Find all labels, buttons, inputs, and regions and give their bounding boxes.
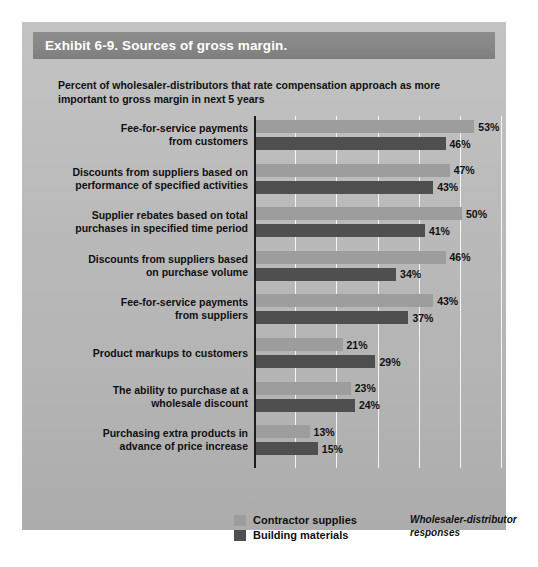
category-label-line: Fee-for-service payments [38, 296, 248, 309]
bar-contractor-supplies [256, 207, 462, 220]
bar-row: 15% [256, 442, 343, 455]
bar-row: 47% [256, 164, 475, 177]
category-label: Fee-for-service paymentsfrom suppliers [38, 296, 248, 322]
bar-row: 23% [256, 382, 376, 395]
bar-value-label: 47% [454, 164, 475, 176]
bar-contractor-supplies [256, 164, 450, 177]
bar-value-label: 41% [429, 225, 450, 237]
category-label: Product markups to customers [38, 347, 248, 360]
bar-value-label: 29% [379, 356, 400, 368]
bar-value-label: 43% [437, 181, 458, 193]
category-label: The ability to purchase at awholesale di… [38, 384, 248, 410]
bar-building-materials [256, 442, 318, 455]
category-label-line: Product markups to customers [38, 347, 248, 360]
bar-value-label: 34% [400, 268, 421, 280]
bar-contractor-supplies [256, 294, 433, 307]
bar-building-materials [256, 224, 425, 237]
chart-subtitle: Percent of wholesaler-distributors that … [58, 78, 478, 106]
bar-row: 34% [256, 268, 421, 281]
exhibit-panel: Exhibit 6-9. Sources of gross margin. Pe… [22, 22, 506, 530]
category-label-line: Supplier rebates based on total [38, 209, 248, 222]
bar-row: 46% [256, 137, 471, 150]
category-label-line: wholesale discount [38, 397, 248, 410]
bar-row: 29% [256, 355, 400, 368]
category-label-line: performance of specified activities [38, 179, 248, 192]
category-label-line: Discounts from suppliers based [38, 253, 248, 266]
bar-contractor-supplies [256, 251, 446, 264]
bar-contractor-supplies [256, 120, 474, 133]
legend-swatch [234, 530, 246, 541]
category-label-line: from customers [38, 135, 248, 148]
bar-value-label: 46% [450, 138, 471, 150]
bar-row: 13% [256, 425, 335, 438]
plot-area: 53%46%47%43%50%41%46%34%43%37%21%29%23%2… [254, 114, 485, 470]
bar-value-label: 53% [478, 121, 499, 133]
exhibit-title-band: Exhibit 6-9. Sources of gross margin. [33, 32, 495, 59]
bar-value-label: 43% [437, 295, 458, 307]
bar-value-label: 24% [359, 399, 380, 411]
bar-row: 43% [256, 294, 458, 307]
bar-row: 21% [256, 338, 368, 351]
bar-value-label: 23% [355, 382, 376, 394]
exhibit-title: Exhibit 6-9. Sources of gross margin. [45, 38, 287, 53]
bar-building-materials [256, 268, 396, 281]
category-label: Supplier rebates based on totalpurchases… [38, 209, 248, 235]
bar-building-materials [256, 311, 408, 324]
bar-contractor-supplies [256, 382, 351, 395]
bar-building-materials [256, 355, 375, 368]
bar-value-label: 15% [322, 443, 343, 455]
bar-value-label: 21% [347, 339, 368, 351]
bar-row: 53% [256, 120, 499, 133]
bar-row: 46% [256, 251, 471, 264]
bar-contractor-supplies [256, 425, 310, 438]
legend-swatch [234, 515, 246, 526]
source-note: Wholesaler-distributor responses [410, 514, 520, 539]
category-label-line: purchases in specified time period [38, 222, 248, 235]
category-label-line: Purchasing extra products in [38, 427, 248, 440]
bar-building-materials [256, 137, 446, 150]
category-label-line: on purchase volume [38, 266, 248, 279]
bar-value-label: 46% [450, 251, 471, 263]
legend-label: Building materials [253, 529, 348, 541]
legend-item: Building materials [234, 529, 357, 541]
legend-item: Contractor supplies [234, 514, 357, 526]
bar-row: 41% [256, 224, 450, 237]
bar-value-label: 37% [412, 312, 433, 324]
bar-row: 24% [256, 399, 380, 412]
bar-row: 50% [256, 207, 487, 220]
category-label: Fee-for-service paymentsfrom customers [38, 122, 248, 148]
bar-value-label: 50% [466, 208, 487, 220]
bar-row: 37% [256, 311, 433, 324]
category-label: Discounts from suppliers basedon purchas… [38, 253, 248, 279]
bar-row: 43% [256, 181, 458, 194]
bar-value-label: 13% [314, 426, 335, 438]
category-label-line: The ability to purchase at a [38, 384, 248, 397]
grouped-bar-chart: 53%46%47%43%50%41%46%34%43%37%21%29%23%2… [33, 114, 495, 474]
category-label-line: Discounts from suppliers based on [38, 166, 248, 179]
gridline [501, 116, 502, 468]
category-label-line: Fee-for-service payments [38, 122, 248, 135]
bar-building-materials [256, 181, 433, 194]
category-label-line: from suppliers [38, 309, 248, 322]
chart-legend: Contractor suppliesBuilding materials [234, 514, 357, 541]
bar-building-materials [256, 399, 355, 412]
legend-label: Contractor supplies [253, 514, 357, 526]
category-label: Purchasing extra products inadvance of p… [38, 427, 248, 453]
bar-contractor-supplies [256, 338, 343, 351]
category-label: Discounts from suppliers based onperform… [38, 166, 248, 192]
category-label-line: advance of price increase [38, 440, 248, 453]
